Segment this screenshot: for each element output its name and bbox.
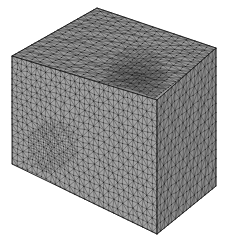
mesh-figure	[0, 0, 226, 242]
mesh-canvas	[0, 0, 226, 242]
